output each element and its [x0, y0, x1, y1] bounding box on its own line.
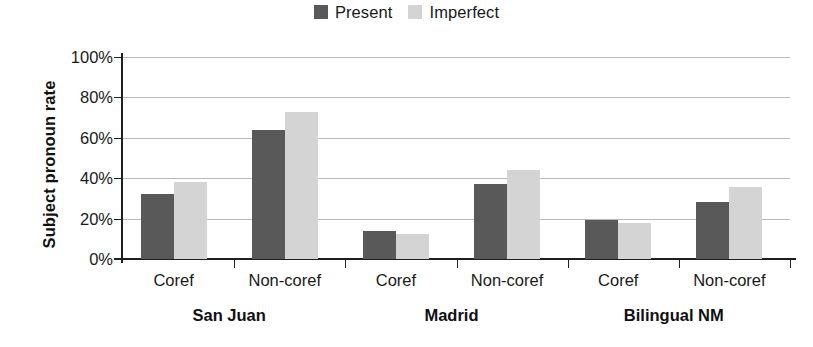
bar — [252, 130, 285, 259]
bar-chart-figure: Present Imperfect Subject pronoun rate 1… — [0, 0, 813, 347]
x-tick-mark — [790, 259, 791, 268]
bar — [696, 202, 729, 259]
x-tick-mark — [679, 259, 680, 268]
legend-swatch-present-icon — [314, 5, 328, 19]
bar — [729, 187, 762, 259]
x-category-label: Non-coref — [249, 272, 321, 289]
x-category-label: Coref — [376, 272, 416, 289]
y-tick-label: 80% — [7, 89, 113, 106]
y-axis-ticks: 100%80%60%40%20%0% — [0, 0, 113, 347]
y-tick-label: 60% — [7, 130, 113, 147]
gridline — [123, 138, 790, 139]
plot-area — [123, 57, 790, 259]
legend-entry-present: Present — [314, 4, 393, 21]
legend-label-imperfect: Imperfect — [429, 4, 499, 21]
gridline — [123, 219, 790, 220]
bar — [507, 170, 540, 259]
gridline — [123, 178, 790, 179]
x-tick-mark — [234, 259, 235, 268]
x-category-label: Coref — [598, 272, 638, 289]
x-group-label: San Juan — [192, 307, 265, 324]
legend-swatch-imperfect-icon — [408, 5, 422, 19]
bar — [174, 182, 207, 259]
gridline — [123, 97, 790, 98]
bar — [474, 184, 507, 259]
legend-label-present: Present — [335, 4, 393, 21]
x-tick-mark — [345, 259, 346, 268]
gridline — [123, 57, 790, 58]
y-tick-label: 100% — [7, 49, 113, 66]
x-category-label: Non-coref — [471, 272, 543, 289]
bar — [363, 231, 396, 259]
x-group-label: Bilingual NM — [624, 307, 724, 324]
x-group-label: Madrid — [424, 307, 478, 324]
bar — [141, 194, 174, 259]
bar — [585, 220, 618, 259]
x-tick-mark — [568, 259, 569, 268]
bar — [396, 234, 429, 259]
y-tick-label: 20% — [7, 211, 113, 228]
y-tick-label: 40% — [7, 170, 113, 187]
y-tick-label: 0% — [7, 251, 113, 268]
chart-legend: Present Imperfect — [0, 4, 813, 21]
x-category-label: Non-coref — [693, 272, 765, 289]
legend-entry-imperfect: Imperfect — [408, 4, 499, 21]
x-tick-mark — [457, 259, 458, 268]
bar — [285, 112, 318, 259]
bar — [618, 223, 651, 259]
x-category-label: Coref — [153, 272, 193, 289]
